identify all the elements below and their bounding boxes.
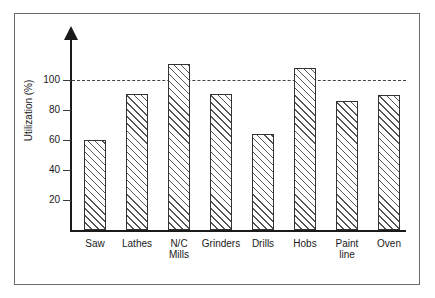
bar-grinders[interactable] bbox=[210, 94, 232, 231]
y-tick-label-60-wrap: 60 bbox=[28, 135, 60, 145]
bar-hobs[interactable] bbox=[294, 68, 316, 230]
y-tick-label-100: 100 bbox=[30, 75, 60, 85]
y-tick-mark-20 bbox=[63, 200, 71, 201]
bar-paint-line[interactable] bbox=[336, 101, 358, 230]
bar-nc-mills[interactable] bbox=[168, 64, 190, 231]
y-axis-line bbox=[70, 38, 72, 231]
bar-oven[interactable] bbox=[378, 95, 400, 230]
x-tick-label-grinders: Grinders bbox=[200, 238, 242, 249]
y-tick-mark-80 bbox=[63, 110, 71, 111]
y-tick-mark-40 bbox=[63, 170, 71, 171]
chart-figure: Utilization (%) 100 80 60 40 20 bbox=[0, 0, 435, 298]
y-tick-label-100-wrap: 100 bbox=[28, 75, 60, 85]
bar-lathes[interactable] bbox=[126, 94, 148, 231]
x-tick-label-paint-line: Paint line bbox=[326, 238, 368, 260]
y-tick-label-40: 40 bbox=[30, 165, 60, 175]
y-tick-label-40-wrap: 40 bbox=[28, 165, 60, 175]
y-tick-label-20-wrap: 20 bbox=[28, 195, 60, 205]
x-tick-label-oven: Oven bbox=[368, 238, 410, 249]
y-tick-mark-60 bbox=[63, 140, 71, 141]
y-tick-label-80-wrap: 80 bbox=[28, 105, 60, 115]
y-tick-label-60: 60 bbox=[30, 135, 60, 145]
y-tick-label-80: 80 bbox=[30, 105, 60, 115]
x-tick-label-lathes: Lathes bbox=[116, 238, 158, 249]
x-tick-label-nc-mills: N/C Mills bbox=[158, 238, 200, 260]
plot-area: Utilization (%) 100 80 60 40 20 bbox=[0, 0, 435, 298]
x-tick-label-hobs: Hobs bbox=[284, 238, 326, 249]
bar-drills[interactable] bbox=[252, 134, 274, 230]
y-tick-label-20: 20 bbox=[30, 195, 60, 205]
target-utilization-line bbox=[72, 80, 406, 81]
x-axis-line bbox=[70, 230, 406, 232]
bar-saw[interactable] bbox=[84, 140, 106, 230]
x-tick-label-drills: Drills bbox=[242, 238, 284, 249]
y-tick-mark-100 bbox=[63, 80, 71, 81]
x-tick-label-saw: Saw bbox=[74, 238, 116, 249]
